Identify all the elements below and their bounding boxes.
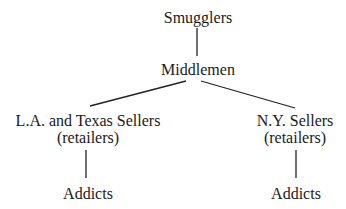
node-addicts-right-label: Addicts — [271, 185, 321, 202]
node-la-texas-sellers-sublabel: (retailers) — [16, 129, 161, 146]
node-ny-sellers-label: N.Y. Sellers — [257, 112, 334, 129]
node-addicts-left-label: Addicts — [63, 185, 113, 202]
node-la-texas-sellers-label: L.A. and Texas Sellers — [16, 112, 161, 129]
edge-middlemen-la-texas-sellers — [90, 81, 186, 106]
node-addicts-right: Addicts — [271, 185, 321, 202]
node-ny-sellers: N.Y. Sellers (retailers) — [257, 112, 334, 146]
diagram-edges — [0, 0, 346, 209]
node-ny-sellers-sublabel: (retailers) — [257, 129, 334, 146]
edge-middlemen-ny-sellers — [201, 81, 295, 108]
node-la-texas-sellers: L.A. and Texas Sellers (retailers) — [16, 112, 161, 146]
node-middlemen-label: Middlemen — [161, 61, 235, 78]
node-middlemen: Middlemen — [161, 61, 235, 78]
node-addicts-left: Addicts — [63, 185, 113, 202]
node-smugglers-label: Smugglers — [164, 9, 232, 26]
node-smugglers: Smugglers — [164, 9, 232, 26]
